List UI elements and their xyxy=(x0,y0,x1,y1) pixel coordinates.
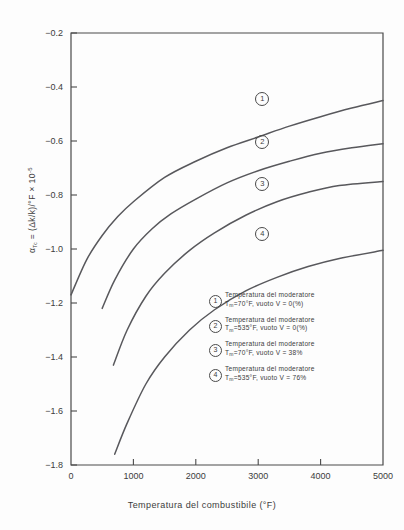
legend-temp-value-4: =535°F, vuoto V = 76% xyxy=(234,374,307,381)
legend-temp-value-2: =535°F, vuoto V = 0(%) xyxy=(234,324,308,331)
legend-temp-subscript-3: m xyxy=(229,351,233,357)
legend-label-line2-4: Tm=535°F, vuoto V = 76% xyxy=(225,374,315,383)
y-tick-label: −0.6 xyxy=(45,136,63,146)
legend-item-2: 2Temperatura del moderatoreTm=535°F, vuo… xyxy=(209,316,384,333)
y-axis-label: αTc = (Δk/k)/°F × 10-5 xyxy=(27,125,37,295)
y-tick-label: −0.8 xyxy=(45,190,63,200)
y-axis-label-rest: = (Δk/k)/°F × 10 xyxy=(27,173,37,242)
x-tick-label: 3000 xyxy=(248,471,268,481)
legend-marker-3: 3 xyxy=(209,344,222,357)
y-axis-label-subscript: Tc xyxy=(32,242,38,248)
legend-label-line1-4: Temperatura del moderatore xyxy=(225,365,315,374)
chart-plot-area: −0.2−0.4−0.6−0.8−1.0−1.2−1.4−1.6−1.80100… xyxy=(0,0,404,530)
x-tick-label: 4000 xyxy=(311,471,331,481)
legend-marker-4: 4 xyxy=(209,369,222,382)
plot-frame xyxy=(71,33,383,465)
legend-temp-subscript-4: m xyxy=(229,376,233,382)
curve-1 xyxy=(71,101,383,295)
legend-marker-2: 2 xyxy=(209,320,222,333)
y-axis-label-alpha: α xyxy=(27,248,37,253)
legend-temp-subscript-2: m xyxy=(229,327,233,333)
figure-container: −0.2−0.4−0.6−0.8−1.0−1.2−1.4−1.6−1.80100… xyxy=(0,0,404,530)
legend-temp-value-1: =70°F, vuoto V = 0(%) xyxy=(234,300,304,307)
y-tick-label: −0.2 xyxy=(45,28,63,38)
legend-label-2: Temperatura del moderatoreTm=535°F, vuot… xyxy=(225,316,315,333)
x-tick-label: 2000 xyxy=(186,471,206,481)
y-tick-label: −1.6 xyxy=(45,406,63,416)
legend-label-line1-3: Temperatura del moderatore xyxy=(225,340,315,349)
y-tick-label: −1.0 xyxy=(45,244,63,254)
x-tick-label: 0 xyxy=(68,471,73,481)
legend-label-line1-2: Temperatura del moderatore xyxy=(225,316,315,325)
x-tick-label: 5000 xyxy=(373,471,393,481)
legend-temp-subscript-1: m xyxy=(229,302,233,308)
legend-label-4: Temperatura del moderatoreTm=535°F, vuot… xyxy=(225,365,315,382)
curve-2 xyxy=(102,144,383,309)
y-tick-label: −1.2 xyxy=(45,298,63,308)
legend-marker-1: 1 xyxy=(209,295,222,308)
y-tick-label: −1.4 xyxy=(45,352,63,362)
y-axis-label-exponent: -5 xyxy=(27,167,33,173)
legend-temp-value-3: =70°F, vuoto V = 38% xyxy=(234,349,303,356)
legend-label-line2-3: Tm=70°F, vuoto V = 38% xyxy=(225,349,315,358)
x-axis-label: Temperatura del combustibile (°F) xyxy=(0,500,404,510)
legend-label-1: Temperatura del moderatoreTm=70°F, vuoto… xyxy=(225,291,315,308)
y-tick-label: −0.4 xyxy=(45,82,63,92)
legend-label-line2-1: Tm=70°F, vuoto V = 0(%) xyxy=(225,300,315,309)
legend-label-3: Temperatura del moderatoreTm=70°F, vuoto… xyxy=(225,340,315,357)
legend: 1Temperatura del moderatoreTm=70°F, vuot… xyxy=(209,291,384,390)
legend-item-4: 4Temperatura del moderatoreTm=535°F, vuo… xyxy=(209,365,384,382)
legend-item-3: 3Temperatura del moderatoreTm=70°F, vuot… xyxy=(209,340,384,357)
y-tick-label: −1.8 xyxy=(45,460,63,470)
legend-item-1: 1Temperatura del moderatoreTm=70°F, vuot… xyxy=(209,291,384,308)
legend-label-line2-2: Tm=535°F, vuoto V = 0(%) xyxy=(225,324,315,333)
x-tick-label: 1000 xyxy=(123,471,143,481)
legend-label-line1-1: Temperatura del moderatore xyxy=(225,291,315,300)
